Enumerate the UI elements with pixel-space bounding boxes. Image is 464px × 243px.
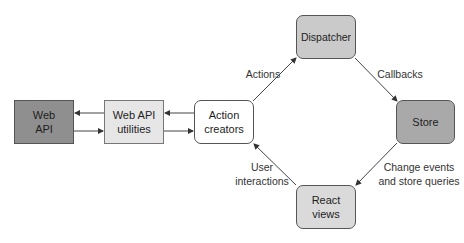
node-web-api: Web API (14, 100, 74, 144)
edge-label-actions: Actions (238, 67, 288, 81)
node-store-label: Store (412, 115, 438, 129)
node-action-creators-label: Action creators (204, 108, 244, 136)
edge-label-change-events: Change events and store queries (376, 160, 462, 188)
node-web-api-utilities-label: Web API utilities (113, 108, 156, 136)
node-react-views: React views (296, 185, 356, 229)
edge-label-user-interactions: User interactions (226, 160, 298, 188)
node-react-views-label: React views (312, 193, 341, 221)
node-dispatcher-label: Dispatcher (301, 30, 351, 44)
node-web-api-label: Web API (33, 108, 55, 136)
node-action-creators: Action creators (194, 100, 254, 144)
node-dispatcher: Dispatcher (296, 15, 356, 59)
edge-label-callbacks: Callbacks (370, 67, 430, 81)
node-web-api-utilities: Web API utilities (104, 100, 164, 144)
node-store: Store (396, 100, 455, 144)
